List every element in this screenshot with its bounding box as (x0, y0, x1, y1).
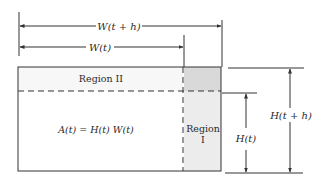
region-one-label-line1: Region (186, 123, 220, 134)
area-growth-diagram: W(t + h) W(t) Region II A(t) = H(t) W(t)… (0, 0, 322, 185)
region-two-label: Region II (79, 73, 124, 84)
height-current-label: H(t) (235, 133, 257, 144)
corner-region-fill (184, 67, 221, 91)
area-formula-label: A(t) = H(t) W(t) (57, 124, 134, 135)
width-next-label: W(t + h) (97, 21, 140, 32)
region-one-label-line2: I (201, 134, 205, 145)
width-current-label: W(t) (89, 42, 111, 53)
height-next-label: H(t + h) (269, 110, 312, 121)
